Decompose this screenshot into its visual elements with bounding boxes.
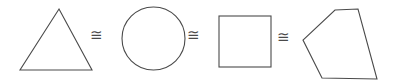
congruence-symbol-2: ≅	[187, 28, 200, 43]
congruent-shapes-figure: ≅ ≅ ≅	[0, 0, 395, 83]
ellipse-shape	[122, 7, 185, 70]
square-shape	[219, 16, 271, 67]
triangle-shape	[20, 9, 92, 70]
congruence-symbol-1: ≅	[90, 28, 103, 43]
congruence-symbol-3: ≅	[277, 30, 290, 45]
quadrilateral-shape	[303, 9, 377, 79]
